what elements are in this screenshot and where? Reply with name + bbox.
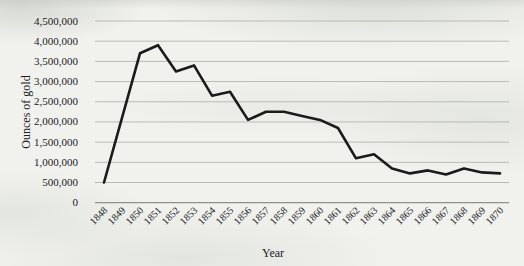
y-tick-label: 3,500,000 <box>34 55 79 67</box>
x-tick-label: 1859 <box>285 205 307 227</box>
x-tick-label: 1850 <box>123 205 145 227</box>
x-tick-label: 1860 <box>303 205 325 227</box>
x-tick-label: 1861 <box>321 205 343 227</box>
x-tick-label: 1865 <box>393 205 415 227</box>
x-tick-label: 1862 <box>339 205 361 227</box>
x-tick-label: 1867 <box>429 205 451 227</box>
x-tick-label: 1856 <box>231 205 253 227</box>
y-tick-label: 500,000 <box>42 176 78 188</box>
x-axis-title: Year <box>262 246 284 260</box>
y-tick-label: 4,500,000 <box>34 15 79 27</box>
x-tick-label: 1870 <box>483 205 505 227</box>
x-tick-label: 1852 <box>159 205 181 227</box>
y-tick-label: 0 <box>73 196 79 208</box>
x-tick-label: 1866 <box>411 205 433 227</box>
x-tick-label: 1848 <box>87 205 109 227</box>
gold-production-line-chart: 0500,0001,000,0001,500,0002,000,0002,500… <box>0 0 524 266</box>
x-tick-label: 1863 <box>357 205 379 227</box>
x-tick-label: 1858 <box>267 205 289 227</box>
x-tick-label: 1868 <box>447 205 469 227</box>
scanned-page-background: 0500,0001,000,0001,500,0002,000,0002,500… <box>0 0 524 266</box>
x-tick-label: 1857 <box>249 205 271 227</box>
x-tick-label: 1854 <box>195 205 217 227</box>
y-tick-label: 1,500,000 <box>34 136 79 148</box>
x-tick-label: 1864 <box>375 205 397 227</box>
y-tick-label: 2,000,000 <box>34 115 79 127</box>
x-tick-label: 1849 <box>105 205 127 227</box>
x-tick-label: 1851 <box>141 205 163 227</box>
x-tick-label: 1869 <box>465 205 487 227</box>
y-tick-label: 4,000,000 <box>34 35 79 47</box>
y-axis-tick-labels: 0500,0001,000,0001,500,0002,000,0002,500… <box>34 15 79 209</box>
x-axis-tick-labels: 1848184918501851185218531854185518561857… <box>87 205 505 227</box>
y-tick-label: 2,500,000 <box>34 95 79 107</box>
y-axis-title: Ounces of gold <box>19 75 33 148</box>
x-tick-label: 1855 <box>213 205 235 227</box>
y-tick-label: 3,000,000 <box>34 75 79 87</box>
y-tick-label: 1,000,000 <box>34 156 79 168</box>
x-tick-label: 1853 <box>177 205 199 227</box>
